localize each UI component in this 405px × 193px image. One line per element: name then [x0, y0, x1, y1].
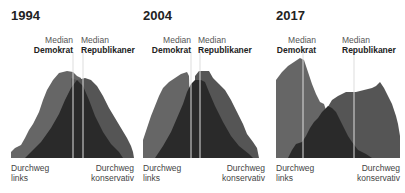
axis-right-label: Durchweg konservativ	[357, 163, 400, 183]
panel-1994: 1994 Median Demokrat Median Republikaner…	[11, 0, 141, 193]
median-dem-label: Median Demokrat	[34, 35, 73, 55]
panel-2017: 2017 Median Demokrat Median Republikaner…	[276, 0, 405, 193]
median-rep-label: Median Republikaner	[198, 35, 252, 55]
axis-left-label: Durchweg links	[276, 163, 314, 183]
axis-right-label: Durchweg konservativ	[222, 163, 265, 183]
median-dem-label: Median Demokrat	[152, 35, 191, 55]
median-dem-label: Median Demokrat	[276, 35, 316, 55]
panel-title: 2017	[276, 8, 305, 23]
panel-title: 1994	[11, 8, 40, 23]
axis-left-label: Durchweg links	[11, 163, 49, 183]
panel-title: 2004	[143, 8, 172, 23]
median-rep-label: Median Republikaner	[81, 35, 135, 55]
median-rep-label: Median Republikaner	[342, 35, 396, 55]
panel-2004: 2004 Median Demokrat Median Republikaner…	[143, 0, 273, 193]
axis-right-label: Durchweg konservativ	[91, 163, 134, 183]
axis-left-label: Durchweg links	[143, 163, 181, 183]
